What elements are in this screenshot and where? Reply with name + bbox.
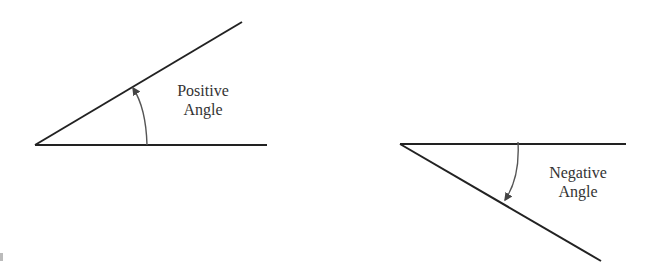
terminal-side: [400, 144, 601, 261]
label-line-1: Positive: [158, 81, 248, 100]
clockwise-arrow-icon: [505, 142, 518, 200]
label-line-2: Angle: [158, 100, 248, 119]
angle-diagram: [0, 0, 646, 273]
negative-angle-figure: [400, 142, 626, 261]
negative-angle-label: Negative Angle: [533, 163, 623, 201]
label-line-2: Angle: [533, 182, 623, 201]
scan-artifact: [0, 253, 3, 261]
label-line-1: Negative: [533, 163, 623, 182]
counterclockwise-arrow-icon: [133, 88, 147, 145]
positive-angle-label: Positive Angle: [158, 81, 248, 119]
